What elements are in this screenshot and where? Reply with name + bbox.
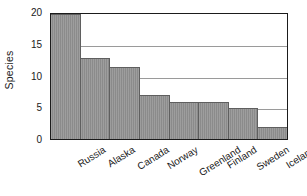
bar-iceland — [258, 127, 287, 140]
bar-sweden — [229, 108, 259, 139]
y-axis-title-text: Species — [3, 51, 15, 90]
x-tick-label-sweden: Sweden — [255, 144, 291, 172]
bar-norway — [140, 95, 170, 139]
bar-chart: Species 20 15 10 5 0 RussiaAlaskaCanadaN… — [0, 0, 307, 196]
y-tick-label-5: 5 — [36, 103, 42, 113]
y-tick-label-15: 15 — [31, 40, 42, 50]
plot-area — [50, 13, 288, 140]
x-tick-label-russia: Russia — [75, 144, 107, 170]
bar-finland — [199, 102, 229, 140]
y-axis-title: Species — [0, 0, 18, 140]
x-tick-label-norway: Norway — [165, 144, 200, 171]
y-tick-label-20: 20 — [31, 8, 42, 18]
x-tick-label-canada: Canada — [136, 144, 172, 172]
bar-series — [51, 14, 287, 139]
bar-canada — [110, 67, 140, 139]
bar-alaska — [81, 58, 111, 139]
x-axis-tick-labels: RussiaAlaskaCanadaNorwayGreenlandFinland… — [50, 140, 288, 196]
bar-russia — [51, 14, 81, 139]
y-axis-tick-labels: 20 15 10 5 0 — [18, 0, 46, 150]
y-tick-label-10: 10 — [31, 72, 42, 82]
y-tick-label-0: 0 — [36, 135, 42, 145]
bar-greenland — [170, 102, 200, 140]
x-tick-label-alaska: Alaska — [105, 144, 136, 169]
